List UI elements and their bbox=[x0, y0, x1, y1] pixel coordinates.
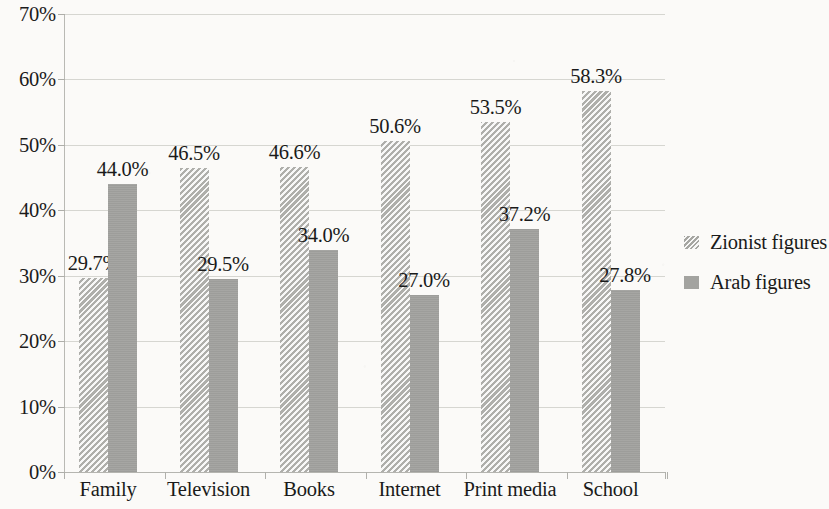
y-axis-tick-label: 10% bbox=[19, 395, 56, 418]
x-axis-category-label: School bbox=[583, 478, 639, 501]
y-axis-tick-mark bbox=[58, 145, 65, 146]
bar-value-label: 29.5% bbox=[197, 253, 248, 276]
y-axis-tick-label: 70% bbox=[19, 3, 56, 26]
bar-value-label: 46.6% bbox=[269, 141, 320, 164]
legend-label: Zionist figures bbox=[710, 231, 827, 254]
y-axis-tick-mark bbox=[58, 341, 65, 342]
bar-value-label: 50.6% bbox=[369, 115, 420, 138]
bar-value-label: 53.5% bbox=[470, 96, 521, 119]
y-axis-tick-mark bbox=[58, 407, 65, 408]
legend-swatch-hatch bbox=[684, 236, 699, 249]
bar-value-label: 34.0% bbox=[298, 224, 349, 247]
x-axis-category-label: Books bbox=[283, 478, 334, 501]
legend-label: Arab figures bbox=[710, 271, 811, 294]
y-axis-tick-mark bbox=[58, 14, 65, 15]
x-axis-category-label: Television bbox=[167, 478, 250, 501]
y-axis-tick-label: 0% bbox=[29, 461, 56, 484]
bar-value-label: 27.0% bbox=[398, 269, 449, 292]
bar bbox=[611, 290, 640, 472]
x-axis: FamilyTelevisionBooksInternetPrint media… bbox=[64, 478, 665, 509]
bar bbox=[510, 229, 539, 472]
y-axis-tick-label: 50% bbox=[19, 133, 56, 156]
bar bbox=[309, 250, 338, 472]
x-axis-tick-mark bbox=[665, 472, 666, 479]
x-axis-category-label: Print media bbox=[464, 478, 557, 501]
bar bbox=[481, 122, 510, 472]
bar-chart: 0%10%20%30%40%50%60%70% 29.7%44.0%46.5%2… bbox=[0, 0, 829, 509]
bar bbox=[410, 295, 439, 472]
bar bbox=[108, 184, 137, 472]
bar-value-label: 46.5% bbox=[168, 142, 219, 165]
chart-legend: Zionist figuresArab figures bbox=[684, 222, 829, 302]
x-axis-tick-mark bbox=[667, 472, 668, 479]
legend-item[interactable]: Arab figures bbox=[684, 262, 829, 302]
legend-swatch-solid bbox=[684, 276, 699, 289]
x-axis-category-label: Family bbox=[80, 478, 137, 501]
y-axis-tick-label: 60% bbox=[19, 68, 56, 91]
y-axis: 0%10%20%30%40%50%60%70% bbox=[0, 0, 56, 509]
bar-value-label: 27.8% bbox=[599, 264, 650, 287]
bar-value-label: 58.3% bbox=[570, 65, 621, 88]
bar bbox=[79, 278, 108, 472]
y-axis-tick-mark bbox=[58, 276, 65, 277]
y-axis-tick-label: 20% bbox=[19, 330, 56, 353]
plot-area: 29.7%44.0%46.5%29.5%46.6%34.0%50.6%27.0%… bbox=[64, 14, 665, 472]
bar-value-label: 37.2% bbox=[499, 203, 550, 226]
bar bbox=[381, 141, 410, 472]
bar bbox=[280, 167, 309, 472]
y-axis-tick-label: 30% bbox=[19, 264, 56, 287]
bar bbox=[180, 168, 209, 472]
bar bbox=[209, 279, 238, 472]
x-axis-category-label: Internet bbox=[378, 478, 440, 501]
y-axis-tick-label: 40% bbox=[19, 199, 56, 222]
y-axis-tick-mark bbox=[58, 472, 65, 473]
legend-item[interactable]: Zionist figures bbox=[684, 222, 829, 262]
bars-layer: 29.7%44.0%46.5%29.5%46.6%34.0%50.6%27.0%… bbox=[64, 14, 665, 472]
y-axis-tick-mark bbox=[58, 210, 65, 211]
x-axis-baseline bbox=[64, 472, 665, 473]
y-axis-tick-mark bbox=[58, 79, 65, 80]
bar-value-label: 44.0% bbox=[97, 158, 148, 181]
